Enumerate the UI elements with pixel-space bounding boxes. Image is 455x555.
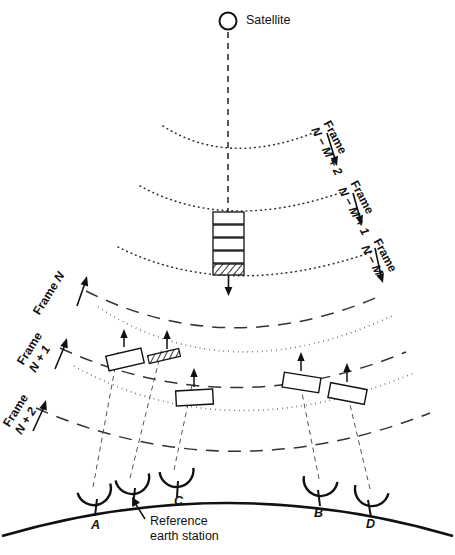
station-c-dish [160,468,196,497]
beam-station-b [300,383,319,479]
reference-note-line-1: Reference [150,514,219,529]
uplink-arc-group [36,291,430,451]
reference-earth-station-note: Reference earth station [150,514,219,544]
burst-d-arrow-head [343,363,350,372]
station-c-label: C [174,494,183,509]
station-a-label: A [91,518,100,533]
satellite-burst-4 [213,251,244,263]
station-b-dish [301,476,337,506]
diagram-svg [0,0,455,555]
satellite-group [220,13,237,213]
station-d-label: D [366,517,375,532]
satellite-downlink-arrow-head [225,287,233,296]
satellite-burst-3 [213,238,244,250]
reference-note-line-2: earth station [150,529,219,544]
burst-a-body [106,348,144,371]
beam-station-d [347,392,370,489]
burst-reference-arrow-head [163,330,170,339]
station-b-label: B [314,506,323,521]
satellite-burst-stack [213,212,244,296]
arc-frame-n [86,291,380,328]
burst-d-body [328,383,367,405]
station-d-dish [351,485,388,517]
beam-station-reference [130,348,162,478]
arc-frame-n-m-plus-2 [163,126,318,148]
satellite-label: Satellite [246,13,290,28]
burst-b-body [282,372,321,393]
uplink-beam-group [93,348,370,489]
arrow-frame-n-plus-1 [55,338,68,369]
burst-c-body [176,389,214,406]
arc-frame-n-m [118,247,372,276]
burst-b-arrow-head [297,352,304,361]
uplink-burst-b [282,352,321,393]
arc-frame-n-m-plus-1 [140,186,348,211]
arc-frame-n-plus-2 [36,408,430,451]
earth-surface-curve [2,503,453,536]
satellite-burst-5-reference [213,264,244,275]
burst-a-arrow-head [120,329,127,338]
uplink-burst-c [176,368,214,406]
figure-canvas: Satellite Frame N − M + 2 Frame N − M + … [0,0,455,555]
satellite-burst-2 [213,225,244,237]
satellite-burst-1 [213,212,244,224]
satellite-icon [220,13,237,30]
burst-reference-body [148,349,181,364]
burst-c-arrow-head [190,368,197,377]
uplink-burst-a [106,329,144,371]
uplink-burst-reference [148,330,181,363]
uplink-burst-d [328,363,367,404]
beam-station-a [93,352,118,487]
arc-interleave-1 [98,307,392,352]
